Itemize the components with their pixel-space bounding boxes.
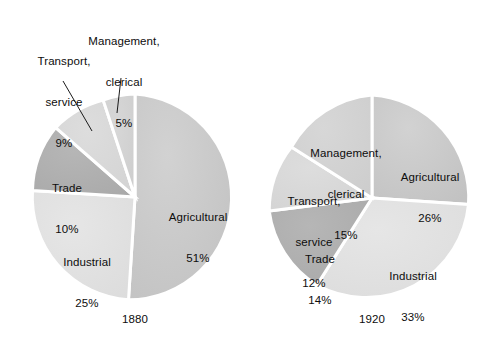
label-1920-management-clerical: Management, clerical 15%	[294, 120, 398, 269]
two-pie-chart-figure: Agricultural 51% Industrial 25% Trade 10…	[0, 0, 499, 346]
label-1880-agricultural-value: 51%	[150, 252, 246, 266]
year-label-1880: 1880	[107, 313, 163, 327]
label-1880-management-clerical: Management, clerical 5%	[72, 8, 176, 157]
label-1880-agricultural-name: Agricultural	[150, 211, 246, 225]
label-1880-trade-name: Trade	[36, 182, 98, 196]
label-1880-management-clerical-name-line1: Management,	[72, 35, 176, 49]
label-1920-transport-service-value: 12%	[272, 277, 356, 291]
label-1880-management-clerical-name-line2: clerical	[72, 76, 176, 90]
label-1920-management-clerical-name-line2: clerical	[294, 188, 398, 202]
label-1920-industrial-name: Industrial	[373, 270, 453, 284]
label-1880-management-clerical-value: 5%	[72, 117, 176, 131]
label-1880-industrial-value: 25%	[47, 297, 127, 311]
label-1880-trade-value: 10%	[36, 223, 98, 237]
label-1920-management-clerical-value: 15%	[294, 229, 398, 243]
label-1920-management-clerical-name-line1: Management,	[294, 147, 398, 161]
label-1880-agricultural: Agricultural 51%	[150, 184, 246, 293]
year-label-1920: 1920	[344, 313, 400, 327]
